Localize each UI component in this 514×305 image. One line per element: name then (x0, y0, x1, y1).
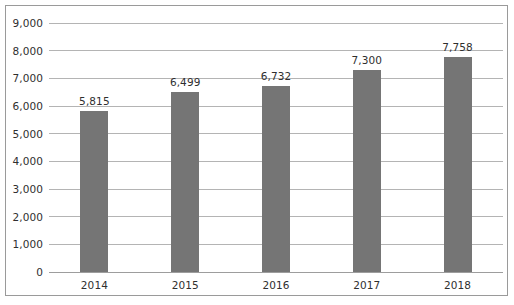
plot-area: 5,8156,4996,7327,3007,758 20142015201620… (49, 6, 503, 295)
y-axis-tick-label: 2,000 (6, 211, 43, 223)
y-axis-tick-label: 0 (6, 266, 43, 278)
y-axis-tick-label: 1,000 (6, 238, 43, 250)
gridline (49, 23, 503, 24)
x-axis-tick-label: 2018 (428, 279, 488, 291)
x-axis-tick-label: 2014 (64, 279, 124, 291)
y-axis-tick-label: 8,000 (6, 45, 43, 57)
bar[interactable] (171, 92, 199, 272)
bar-value-label: 5,815 (64, 95, 124, 107)
y-axis-tick-label: 3,000 (6, 183, 43, 195)
chart-frame: 01,0002,0003,0004,0005,0006,0007,0008,00… (5, 5, 508, 296)
bar[interactable] (444, 57, 472, 272)
bar-value-label: 7,758 (428, 41, 488, 53)
bar[interactable] (353, 70, 381, 272)
y-axis-tick-label: 6,000 (6, 100, 43, 112)
x-axis-tick-label: 2016 (246, 279, 306, 291)
y-axis-tick-label: 4,000 (6, 155, 43, 167)
bar-value-label: 6,732 (246, 70, 306, 82)
x-axis-tick-label: 2015 (155, 279, 215, 291)
y-axis-tick-label: 5,000 (6, 128, 43, 140)
bar[interactable] (80, 111, 108, 272)
x-axis-tick-label: 2017 (337, 279, 397, 291)
y-axis-tick-label: 7,000 (6, 72, 43, 84)
bar[interactable] (262, 86, 290, 272)
y-axis-tick-label: 9,000 (6, 17, 43, 29)
bar-value-label: 6,499 (155, 76, 215, 88)
bar-value-label: 7,300 (337, 54, 397, 66)
